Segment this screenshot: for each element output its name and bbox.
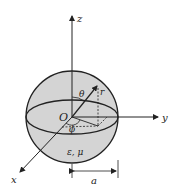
origin-label: O: [59, 111, 68, 124]
z-axis-label: z: [76, 13, 83, 24]
theta-label: θ: [79, 89, 85, 99]
sphere-radius-label: a: [91, 175, 97, 186]
y-axis-label: y: [161, 112, 168, 123]
radius-label: r: [100, 87, 105, 97]
sphere-diagram: z y x r θ ϕ O ε, μ a: [0, 0, 180, 190]
x-axis-label: x: [11, 174, 17, 185]
material-label: ε, μ: [67, 147, 84, 157]
phi-label: ϕ: [69, 124, 75, 134]
